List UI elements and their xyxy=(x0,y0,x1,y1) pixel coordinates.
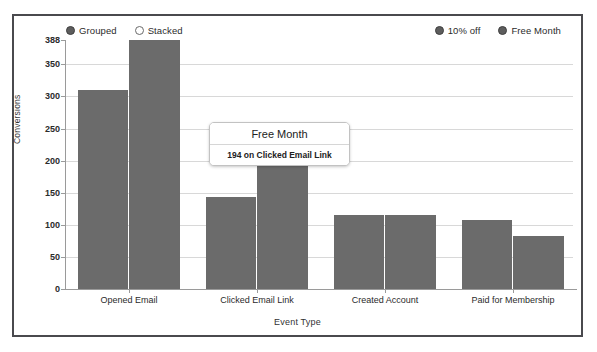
bar[interactable] xyxy=(206,197,257,289)
x-tick-label: Opened Email xyxy=(100,295,157,305)
x-tickmark xyxy=(513,289,514,293)
y-axis-title: Conversions xyxy=(12,95,22,144)
x-tick-label: Created Account xyxy=(352,295,419,305)
y-tick-label: 50 xyxy=(28,252,60,262)
y-tick-label: 150 xyxy=(28,188,60,198)
y-tick-label: 0 xyxy=(28,284,60,294)
bar[interactable] xyxy=(513,236,564,289)
y-tick-label: 300 xyxy=(28,91,60,101)
y-axis-max-label: 388 xyxy=(28,35,60,45)
plot-area: Conversions Event Type 05010015020025030… xyxy=(14,16,581,335)
bar[interactable] xyxy=(385,215,436,289)
y-tick-label: 100 xyxy=(28,220,60,230)
bar[interactable] xyxy=(334,215,385,289)
tooltip-title: Free Month xyxy=(210,123,349,145)
bar[interactable] xyxy=(129,40,180,289)
y-axis-line xyxy=(65,40,66,290)
x-axis-title: Event Type xyxy=(14,317,581,327)
x-tickmark xyxy=(129,289,130,293)
x-tickmark xyxy=(257,289,258,293)
bar[interactable] xyxy=(257,165,308,290)
x-axis-line xyxy=(65,289,577,290)
bar[interactable] xyxy=(78,90,129,289)
tooltip-body: 194 on Clicked Email Link xyxy=(210,145,349,165)
chart-container: Grouped Stacked 10% off Free Month Conve… xyxy=(12,14,583,337)
tooltip: Free Month 194 on Clicked Email Link xyxy=(209,122,350,166)
x-tick-label: Clicked Email Link xyxy=(220,295,294,305)
y-tick-label: 250 xyxy=(28,124,60,134)
x-tickmark xyxy=(385,289,386,293)
x-tick-label: Paid for Membership xyxy=(471,295,554,305)
bar[interactable] xyxy=(462,220,513,289)
y-tick-label: 350 xyxy=(28,59,60,69)
y-tick-label: 200 xyxy=(28,156,60,166)
